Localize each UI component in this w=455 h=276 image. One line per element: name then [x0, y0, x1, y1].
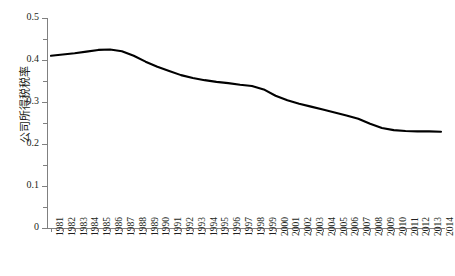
x-tick-2003	[311, 228, 312, 232]
x-tick-1988	[134, 228, 135, 232]
x-tick-1996	[228, 228, 229, 232]
x-tick-2002	[299, 228, 300, 232]
x-tick-1982	[63, 228, 64, 232]
x-tick-1999	[264, 228, 265, 232]
x-tick-2012	[417, 228, 418, 232]
x-tick-1991	[169, 228, 170, 232]
y-tick-label: 0.5	[27, 11, 40, 22]
x-tick-1993	[193, 228, 194, 232]
x-tick-2011	[406, 228, 407, 232]
x-tick-1986	[110, 228, 111, 232]
x-tick-2013	[429, 228, 430, 232]
x-tick-1998	[252, 228, 253, 232]
x-tick-1995	[216, 228, 217, 232]
x-tick-2005	[335, 228, 336, 232]
x-tick-1987	[122, 228, 123, 232]
chart-container: 公司所得税税率 00.10.20.30.40.5 198119821983198…	[0, 0, 455, 276]
x-tick-2014	[441, 228, 442, 232]
x-tick-1990	[157, 228, 158, 232]
x-tick-2006	[346, 228, 347, 232]
x-tick-1994	[205, 228, 206, 232]
x-tick-1997	[240, 228, 241, 232]
x-tick-1989	[146, 228, 147, 232]
x-tick-1984	[86, 228, 87, 232]
x-tick-2001	[287, 228, 288, 232]
plot-area: 00.10.20.30.40.5 19811982198319841985198…	[47, 18, 445, 228]
y-tick-0: 0	[42, 228, 47, 229]
y-tick-label: 0	[34, 221, 39, 232]
tax-rate-line-series	[47, 18, 445, 228]
y-tick-label: 0.2	[27, 137, 40, 148]
x-tick-1983	[75, 228, 76, 232]
x-tick-1985	[98, 228, 99, 232]
x-tick-1992	[181, 228, 182, 232]
x-tick-2009	[382, 228, 383, 232]
x-tick-2000	[276, 228, 277, 232]
x-tick-2007	[358, 228, 359, 232]
y-tick-label: 0.3	[27, 95, 40, 106]
y-tick-label: 0.4	[27, 53, 40, 64]
x-tick-label: 2014	[445, 217, 455, 236]
x-tick-2008	[370, 228, 371, 232]
y-tick-label: 0.1	[27, 179, 40, 190]
x-tick-2004	[323, 228, 324, 232]
x-tick-2010	[394, 228, 395, 232]
x-tick-1981	[51, 228, 52, 232]
